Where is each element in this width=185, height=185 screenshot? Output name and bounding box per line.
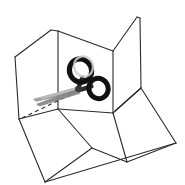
scissors-pivot xyxy=(75,86,81,92)
line-drawing-canvas xyxy=(0,0,185,185)
box-scissors-illustration: Unfolded cardboard box with scissors cut… xyxy=(0,0,185,185)
